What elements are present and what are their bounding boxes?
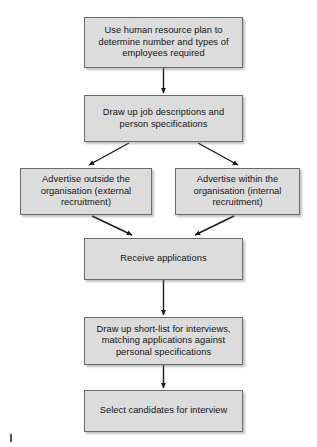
- flowchart-node-hr-plan[interactable]: Use human resource plan to determine num…: [84, 17, 243, 68]
- flowchart-node-receive-applications[interactable]: Receive applications: [84, 238, 243, 280]
- flowchart-node-label: Use human resource plan to determine num…: [89, 25, 238, 60]
- flowchart-node-advertise-external[interactable]: Advertise outside the organisation (exte…: [20, 168, 152, 215]
- flowchart-node-label: Advertise within the organisation (inter…: [180, 174, 295, 209]
- edge-advertise-internal-to-receive-applications: [195, 216, 234, 235]
- flowchart-node-label: Draw up job descriptions and person spec…: [89, 107, 238, 130]
- flowchart-node-label: Advertise outside the organisation (exte…: [25, 174, 147, 209]
- flowchart-node-shortlist[interactable]: Draw up short-list for interviews, match…: [84, 317, 243, 365]
- flowchart-node-job-descriptions[interactable]: Draw up job descriptions and person spec…: [84, 95, 243, 142]
- flowchart-node-select-candidates[interactable]: Select candidates for interview: [84, 390, 243, 432]
- flowchart-node-label: Draw up short-list for interviews, match…: [89, 324, 238, 359]
- corner-tick-mark: [10, 434, 12, 442]
- edge-job-desc-to-advertise-external: [89, 143, 129, 165]
- flowchart-node-advertise-internal[interactable]: Advertise within the organisation (inter…: [175, 168, 300, 215]
- flowchart-node-label: Select candidates for interview: [89, 405, 238, 417]
- flowchart-node-label: Receive applications: [89, 253, 238, 265]
- edge-job-desc-to-advertise-internal: [198, 143, 238, 165]
- edge-advertise-external-to-receive-applications: [92, 216, 132, 235]
- flowchart-canvas: Use human resource plan to determine num…: [0, 0, 317, 447]
